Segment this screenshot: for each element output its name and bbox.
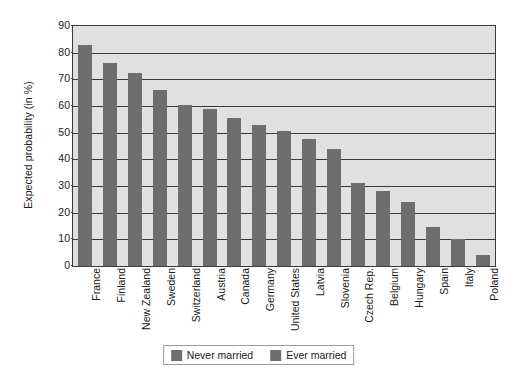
legend-swatch: [270, 350, 281, 361]
y-axis-tick-label: 10: [48, 233, 70, 244]
x-axis-tick-label: Austria: [214, 268, 228, 348]
y-axis-tick-labels: 0102030405060708090: [38, 25, 70, 265]
bar: [277, 131, 291, 266]
bar: [351, 183, 365, 266]
legend-entry: Ever married: [270, 349, 346, 361]
x-axis-tick-label: Switzerland: [189, 268, 203, 348]
y-axis-tick-label: 40: [48, 153, 70, 164]
x-axis-tick-label: Belgium: [387, 268, 401, 348]
x-axis-tick-label: Poland: [487, 268, 501, 348]
legend-label: Ever married: [286, 349, 346, 361]
legend-entry: Never married: [171, 349, 254, 361]
x-axis-tick-label: Czech Rep.: [362, 268, 376, 348]
x-axis-tick-label: Hungary: [412, 268, 426, 348]
bar: [426, 227, 440, 266]
x-axis-tick-label: New Zealand: [139, 268, 153, 348]
x-axis-tick-label: Slovenia: [338, 268, 352, 348]
bar: [476, 255, 490, 266]
bar: [203, 109, 217, 266]
bar: [401, 202, 415, 266]
bar: [78, 45, 92, 266]
plot-area: [72, 25, 496, 267]
x-axis-tick-label: United States: [288, 268, 302, 348]
gridline: [73, 53, 495, 54]
bar: [128, 73, 142, 266]
y-axis-tick-label: 0: [48, 260, 70, 271]
y-axis-tick-label: 70: [48, 73, 70, 84]
bar: [302, 139, 316, 266]
x-axis-tick-label: Germany: [263, 268, 277, 348]
y-axis-title: Expected probability (in %): [20, 25, 36, 265]
y-axis-tick-label: 60: [48, 100, 70, 111]
legend-label: Never married: [187, 349, 254, 361]
x-axis-category-labels: FranceFinlandNew ZealandSwedenSwitzerlan…: [72, 268, 494, 348]
y-axis-tick-label: 30: [48, 180, 70, 191]
bar: [153, 90, 167, 266]
x-axis-tick-label: Canada: [238, 268, 252, 348]
legend-swatch: [171, 350, 182, 361]
x-axis-tick-label: Spain: [437, 268, 451, 348]
bar: [178, 105, 192, 266]
bar: [227, 118, 241, 266]
bar: [252, 125, 266, 266]
x-axis-tick-label: Italy: [462, 268, 476, 348]
bar: [103, 63, 117, 266]
bar-chart: Expected probability (in %) 010203040506…: [0, 0, 517, 384]
bar: [451, 239, 465, 266]
bar: [376, 191, 390, 266]
y-axis-tick-label: 90: [48, 20, 70, 31]
y-axis-tick-label: 50: [48, 126, 70, 137]
y-axis-tick-label: 20: [48, 206, 70, 217]
bar: [327, 149, 341, 266]
x-axis-tick-label: Latvia: [313, 268, 327, 348]
x-axis-tick-label: France: [89, 268, 103, 348]
x-axis-tick-label: Sweden: [164, 268, 178, 348]
chart-legend: Never marriedEver married: [163, 345, 355, 365]
x-axis-tick-label: Finland: [114, 268, 128, 348]
y-axis-tick-label: 80: [48, 46, 70, 57]
